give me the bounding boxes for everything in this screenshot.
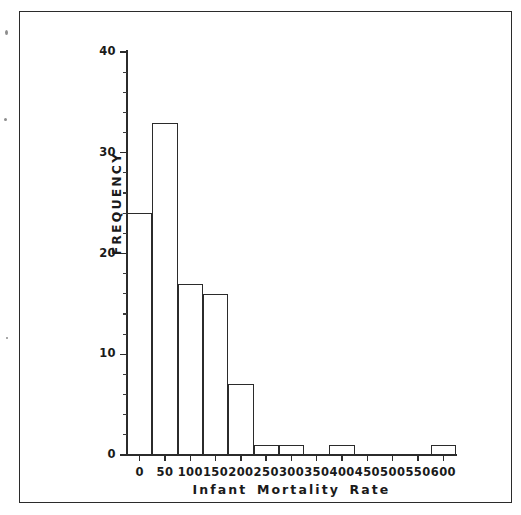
histogram-bar	[228, 384, 253, 455]
y-tick-40	[120, 51, 127, 52]
histogram-bar	[431, 445, 456, 455]
y-tick-label: 0	[86, 449, 116, 461]
y-tick-label: 40	[86, 46, 116, 58]
y-tick-label: 10	[86, 348, 116, 360]
histogram-bar	[329, 445, 354, 455]
y-axis-title: FREQUENCY	[109, 144, 124, 264]
y-tick-label-text: 0	[86, 449, 116, 461]
y-tick-label-text: 40	[86, 46, 116, 58]
x-axis-title: Infant Mortality Rate	[127, 482, 456, 497]
x-tick-label-text: 600	[431, 465, 456, 479]
x-tick-label-text: 0	[135, 465, 143, 479]
histogram-chart: 010203040 050100150200250300350400450500…	[0, 0, 521, 515]
plot-area	[127, 52, 456, 455]
histogram-bar	[152, 123, 177, 455]
histogram-bar	[178, 284, 203, 455]
x-tick-label: 600	[423, 461, 463, 480]
histogram-bar	[279, 445, 304, 455]
histogram-bar	[127, 213, 152, 455]
histogram-bar	[203, 294, 228, 455]
y-tick-0	[120, 454, 127, 455]
y-tick-label-text: 10	[86, 348, 116, 360]
histogram-bar	[254, 445, 279, 455]
y-tick-10	[120, 354, 127, 355]
